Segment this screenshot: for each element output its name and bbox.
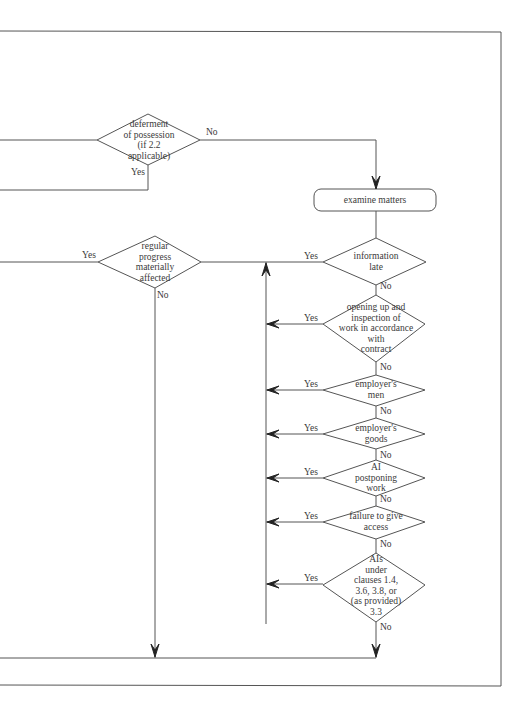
ais-under-clauses-node: AIs under clauses 1.4, 3.6, 3.8, or (as … <box>351 554 401 618</box>
edge-label-ai-postponing-no: No <box>380 494 392 504</box>
edge-label-information-late-yes: Yes <box>304 251 318 261</box>
node-line: materially <box>136 262 175 273</box>
ai-postponing-node: AI postponing work <box>355 462 397 494</box>
node-line: progress <box>136 251 175 262</box>
node-line: work in accordance <box>339 323 413 334</box>
regular-progress-node: regular progress materially affected <box>136 241 175 283</box>
frame-border <box>0 31 501 686</box>
node-line: information <box>354 251 399 262</box>
node-line: of possession <box>124 129 175 140</box>
node-line: with <box>339 333 413 344</box>
node-line: work <box>355 483 397 494</box>
node-line: (as provided) <box>351 597 401 608</box>
flowchart-canvas: deferment of possession (if 2.2 applicab… <box>0 0 523 711</box>
node-line: clauses 1.4, <box>351 575 401 586</box>
node-line: AIs <box>351 554 401 565</box>
node-line: men <box>355 390 396 401</box>
employers-men-node: employer's men <box>355 379 396 400</box>
opening-up-node: opening up and inspection of work in acc… <box>339 302 413 355</box>
node-line: postponing <box>355 473 397 484</box>
edge-label-opening-up-yes: Yes <box>304 313 318 323</box>
edge-label-employers-men-no: No <box>380 406 392 416</box>
node-line: 3.3 <box>351 607 401 618</box>
edge-label-ais-under-clauses-yes: Yes <box>304 573 318 583</box>
edge-label-employers-goods-no: No <box>380 450 392 460</box>
edge-label-failure-access-yes: Yes <box>304 511 318 521</box>
node-line: inspection of <box>339 312 413 323</box>
node-line: affected <box>136 273 175 284</box>
edge-label-deferment-yes: Yes <box>131 167 145 177</box>
node-line: 3.6, 3.8, or <box>351 586 401 597</box>
edge-label-regular-progress-yes: Yes <box>82 250 96 260</box>
node-line: applicable) <box>124 151 175 162</box>
node-line: (if 2.2 <box>124 140 175 151</box>
edge-label-ai-postponing-yes: Yes <box>304 467 318 477</box>
node-line: AI <box>355 462 397 473</box>
node-line: regular <box>136 241 175 252</box>
node-line: goods <box>355 434 396 445</box>
edge-label-ais-under-clauses-no: No <box>380 622 392 632</box>
edge-label-information-late-no: No <box>380 281 392 291</box>
node-line: employer's <box>355 379 396 390</box>
node-line: examine matters <box>344 195 407 206</box>
node-line: contract <box>339 344 413 355</box>
edge-label-failure-access-no: No <box>380 539 392 549</box>
node-line: employer's <box>355 423 396 434</box>
deferment-node: deferment of possession (if 2.2 applicab… <box>124 119 175 161</box>
node-line: late <box>354 262 399 273</box>
edge-label-deferment-no: No <box>206 127 218 137</box>
edge-label-employers-men-yes: Yes <box>304 379 318 389</box>
edge-label-regular-progress-no: No <box>157 290 169 300</box>
edge-label-employers-goods-yes: Yes <box>304 423 318 433</box>
failure-access-node: failure to give access <box>349 511 402 532</box>
edge-label-opening-up-no: No <box>380 362 392 372</box>
node-line: failure to give <box>349 511 402 522</box>
flowchart-lines <box>0 0 523 711</box>
employers-goods-node: employer's goods <box>355 423 396 444</box>
information-late-node: information late <box>354 251 399 272</box>
node-line: deferment <box>124 119 175 130</box>
node-line: access <box>349 522 402 533</box>
node-line: under <box>351 565 401 576</box>
examine-matters-node: examine matters <box>344 195 407 206</box>
node-line: opening up and <box>339 302 413 313</box>
